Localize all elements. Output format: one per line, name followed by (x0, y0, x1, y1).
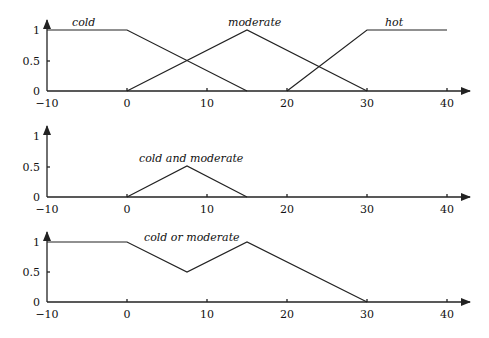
chart-cold-and-moderate: −10 0 10 20 30 40 0 0.5 1 cold and moder… (23, 126, 471, 216)
curve-cold (47, 30, 247, 91)
label-moderate: moderate (228, 16, 282, 29)
y-tick-label: 1 (33, 130, 40, 143)
x-tick-label: 20 (280, 97, 294, 110)
x-tick-label: 0 (124, 308, 131, 321)
y-tick-label: 1 (33, 236, 40, 249)
y-tick-label: 1 (33, 24, 40, 37)
x-tick-label: 30 (360, 97, 374, 110)
x-tick-label: 10 (200, 308, 214, 321)
curve-moderate (127, 30, 367, 91)
x-tick-label: 40 (440, 308, 454, 321)
y-tick-label: 0.5 (23, 161, 41, 174)
x-tick-label: −10 (35, 97, 58, 110)
x-tick-label: 10 (200, 203, 214, 216)
y-tick-label: 0 (33, 191, 40, 204)
x-tick-label: 10 (200, 97, 214, 110)
y-ticks: 0 0.5 1 (23, 236, 51, 309)
y-ticks: 0 0.5 1 (23, 130, 51, 204)
curve-cold-and-moderate (127, 166, 247, 197)
y-tick-label: 0 (33, 296, 40, 309)
curve-cold-or-moderate (47, 242, 367, 302)
fuzzy-membership-figure: −10 0 10 20 30 40 0 0.5 1 cold moderate … (0, 0, 489, 338)
x-tick-label: 20 (280, 203, 294, 216)
label-hot: hot (385, 16, 404, 29)
x-tick-label: 0 (124, 97, 131, 110)
x-tick-label: −10 (35, 203, 58, 216)
label-cold-or-moderate: cold or moderate (144, 231, 240, 244)
y-tick-label: 0.5 (23, 266, 41, 279)
chart-membership-functions: −10 0 10 20 30 40 0 0.5 1 cold moderate … (23, 16, 471, 110)
x-tick-label: 40 (440, 97, 454, 110)
label-cold: cold (72, 16, 95, 29)
x-tick-label: −10 (35, 308, 58, 321)
y-ticks: 0 0.5 1 (23, 24, 51, 98)
label-cold-and-moderate: cold and moderate (139, 152, 244, 165)
x-tick-label: 30 (360, 308, 374, 321)
y-tick-label: 0.5 (23, 55, 41, 68)
x-tick-label: 0 (124, 203, 131, 216)
x-tick-label: 30 (360, 203, 374, 216)
x-tick-label: 40 (440, 203, 454, 216)
curve-hot (287, 30, 447, 91)
y-tick-label: 0 (33, 85, 40, 98)
x-tick-label: 20 (280, 308, 294, 321)
chart-cold-or-moderate: −10 0 10 20 30 40 0 0.5 1 cold or modera… (23, 231, 471, 321)
